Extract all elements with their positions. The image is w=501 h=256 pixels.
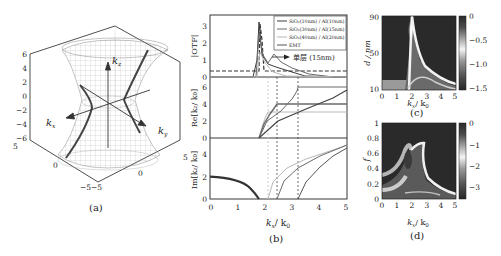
svg-text:6: 6 bbox=[202, 83, 207, 92]
panel-d-heatmap: 0 −1 −2 −3 1 0.8 0.6 0.4 0.2 0 0 1 2 3 4… bbox=[362, 119, 480, 228]
svg-text:2: 2 bbox=[202, 173, 207, 182]
svg-text:0.8: 0.8 bbox=[367, 134, 379, 143]
svg-text:2: 2 bbox=[202, 117, 207, 126]
svg-text:4: 4 bbox=[439, 92, 444, 101]
svg-text:−2: −2 bbox=[469, 162, 480, 171]
panel-b-y-ticks: 0 1 2 3 0 2 4 6 0 2 4 bbox=[202, 22, 207, 204]
svg-text:3: 3 bbox=[425, 201, 430, 210]
legend-item-1: SiO₂(10nm) / Al(10nm) bbox=[289, 19, 344, 24]
caption-c: (c) bbox=[410, 107, 423, 118]
im-kz-curves bbox=[210, 145, 347, 199]
svg-text:0: 0 bbox=[202, 134, 207, 143]
svg-text:6: 6 bbox=[22, 50, 27, 59]
svg-text:0: 0 bbox=[209, 203, 214, 212]
svg-text:−2: −2 bbox=[16, 106, 27, 115]
svg-text:5: 5 bbox=[453, 92, 458, 101]
svg-text:1: 1 bbox=[374, 119, 379, 128]
legend-item-4: EMT bbox=[289, 43, 301, 48]
svg-text:−5: −5 bbox=[91, 183, 102, 192]
otf-axis-label: |OTF| bbox=[190, 35, 199, 58]
svg-text:4: 4 bbox=[317, 203, 322, 212]
svg-text:1: 1 bbox=[202, 56, 207, 65]
svg-text:4: 4 bbox=[22, 64, 27, 73]
svg-text:−4: −4 bbox=[16, 120, 27, 129]
svg-text:1: 1 bbox=[236, 203, 241, 212]
legend-item-2: SiO₂(30nm) / Al(15nm) bbox=[289, 27, 344, 32]
caption-b: (b) bbox=[269, 233, 283, 244]
svg-text:0: 0 bbox=[380, 92, 385, 101]
legend-item-3: SiO₂(40nm) / Al(20nm) bbox=[289, 35, 344, 40]
svg-text:0: 0 bbox=[469, 12, 474, 21]
svg-text:−1.5: −1.5 bbox=[469, 84, 487, 93]
svg-text:−0.5: −0.5 bbox=[469, 36, 487, 45]
svg-text:−1.0: −1.0 bbox=[469, 60, 487, 69]
legend-box: SiO₂(10nm) / Al(10nm) SiO₂(30nm) / Al(15… bbox=[274, 16, 346, 50]
svg-text:2: 2 bbox=[263, 203, 268, 212]
svg-text:3: 3 bbox=[202, 22, 207, 31]
svg-text:单层 (15nm): 单层 (15nm) bbox=[293, 53, 335, 62]
panel-b-plots: SiO₂(10nm) / Al(10nm) SiO₂(30nm) / Al(15… bbox=[190, 15, 349, 229]
ky-axis-label: ky bbox=[158, 125, 168, 138]
re-kz-curves bbox=[259, 87, 347, 138]
svg-text:3: 3 bbox=[425, 92, 430, 101]
svg-text:0: 0 bbox=[202, 195, 207, 204]
svg-text:0: 0 bbox=[138, 169, 143, 178]
svg-text:1: 1 bbox=[395, 92, 400, 101]
svg-text:0.6: 0.6 bbox=[367, 149, 379, 158]
colorbar-c-ticks: 0 −0.5 −1.0 −1.5 bbox=[469, 12, 487, 93]
svg-text:0: 0 bbox=[22, 92, 27, 101]
svg-text:2: 2 bbox=[202, 39, 207, 48]
panel-b-x-ticks: 0 1 2 3 4 5 bbox=[209, 203, 349, 212]
d-nm-axis-label: d / nm bbox=[363, 40, 372, 66]
single-layer-annotation: 单层 (15nm) bbox=[272, 53, 335, 62]
svg-text:5: 5 bbox=[183, 153, 188, 162]
panel-c-heatmap: 0 −0.5 −1.0 −1.5 90 50 10 0 1 2 3 4 5 d … bbox=[363, 12, 487, 109]
caption-d: (d) bbox=[410, 230, 424, 241]
caption-a: (a) bbox=[89, 202, 103, 213]
svg-text:0: 0 bbox=[53, 161, 58, 170]
svg-text:0: 0 bbox=[374, 195, 379, 204]
svg-text:1: 1 bbox=[395, 201, 400, 210]
panel-d-x-label: kx/ k0 bbox=[407, 218, 429, 228]
svg-text:2: 2 bbox=[410, 201, 415, 210]
figure-canvas: kz kx ky 6 4 2 0 −2 −4 −6 5 0 −5 −5 0 5 bbox=[0, 0, 501, 256]
svg-text:4: 4 bbox=[202, 150, 207, 159]
svg-text:2: 2 bbox=[22, 78, 27, 87]
svg-text:5: 5 bbox=[453, 201, 458, 210]
panel-d-x-ticks: 0 1 2 3 4 5 bbox=[380, 201, 458, 210]
colorbar-d-ticks: 0 −1 −2 −3 bbox=[469, 119, 480, 192]
svg-text:−5: −5 bbox=[80, 183, 91, 192]
re-kz-axis-label: Re[kz/ k0] bbox=[190, 89, 199, 127]
panel-a-3d-plot: kz kx ky 6 4 2 0 −2 −4 −6 5 0 −5 −5 0 5 bbox=[13, 26, 188, 192]
kx-axis-label: kx bbox=[46, 117, 56, 129]
svg-text:−1: −1 bbox=[469, 141, 480, 150]
svg-text:0: 0 bbox=[469, 119, 474, 128]
kx-k0-axis-label: kx/ k0 bbox=[266, 218, 290, 229]
svg-text:0: 0 bbox=[202, 73, 207, 82]
z-tick-labels: 6 4 2 0 −2 −4 −6 bbox=[16, 50, 27, 143]
svg-text:0: 0 bbox=[380, 201, 385, 210]
svg-text:5: 5 bbox=[344, 203, 349, 212]
svg-text:10: 10 bbox=[369, 85, 379, 94]
svg-text:4: 4 bbox=[202, 100, 207, 109]
svg-text:4: 4 bbox=[439, 201, 444, 210]
svg-text:−3: −3 bbox=[469, 183, 480, 192]
svg-text:3: 3 bbox=[290, 203, 295, 212]
colorbar-c bbox=[459, 16, 466, 90]
colorbar-d bbox=[459, 123, 466, 199]
svg-text:90: 90 bbox=[369, 13, 379, 22]
svg-text:0.2: 0.2 bbox=[367, 180, 379, 189]
im-kz-axis-label: Im[kz/ k0] bbox=[190, 151, 199, 189]
svg-text:5: 5 bbox=[13, 142, 18, 151]
svg-text:0.4: 0.4 bbox=[367, 164, 379, 173]
